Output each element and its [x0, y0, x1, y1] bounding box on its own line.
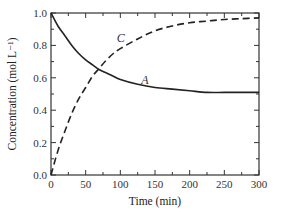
curve-label-a: A — [140, 73, 149, 87]
y-tick-label: 0.6 — [33, 72, 47, 84]
x-axis-label: Time (min) — [129, 195, 181, 208]
y-axis-label: Concentration (mol L⁻¹) — [6, 37, 19, 150]
y-tick-label: 0.2 — [33, 137, 47, 149]
concentration-chart: 0501001502002503000.00.20.40.60.81.0 CA … — [0, 0, 283, 215]
y-tick-label: 0.0 — [33, 169, 47, 181]
y-tick-label: 0.8 — [33, 39, 47, 51]
curve-label-c: C — [117, 31, 126, 45]
plot-border — [51, 13, 259, 175]
x-tick-label: 50 — [80, 178, 92, 190]
data-curves — [51, 13, 259, 175]
curve-c — [51, 18, 259, 175]
x-tick-label: 250 — [216, 178, 233, 190]
x-tick-label: 200 — [181, 178, 198, 190]
y-tick-label: 0.4 — [33, 104, 47, 116]
plot-frame — [51, 13, 259, 175]
x-tick-label: 100 — [112, 178, 129, 190]
x-tick-label: 0 — [48, 178, 54, 190]
axis-ticks — [51, 13, 259, 175]
x-tick-label: 300 — [251, 178, 268, 190]
y-tick-label: 1.0 — [33, 7, 47, 19]
curve-a — [51, 13, 259, 93]
curve-annotations: CA — [117, 31, 149, 87]
axis-tick-labels: 0501001502002503000.00.20.40.60.81.0 — [33, 7, 268, 190]
x-tick-label: 150 — [147, 178, 164, 190]
